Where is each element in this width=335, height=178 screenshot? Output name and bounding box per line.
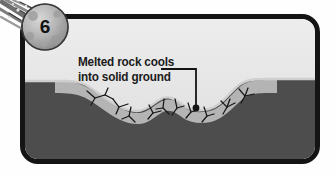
step-number: 6 — [33, 14, 57, 40]
callout-line-2: into solid ground — [78, 70, 174, 85]
callout-text: Melted rock cools into solid ground — [78, 55, 180, 84]
callout-line-1: Melted rock cools — [78, 55, 174, 70]
illustration-panel: Melted rock cools into solid ground — [0, 0, 335, 178]
